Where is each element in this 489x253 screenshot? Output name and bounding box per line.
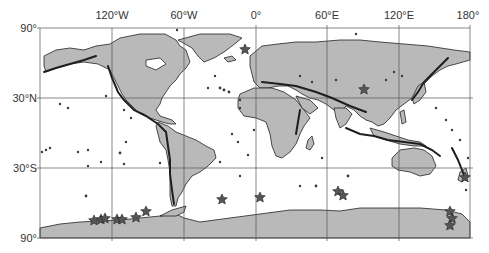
madagascar [306, 136, 314, 150]
iceland [224, 56, 236, 62]
star-icon [141, 206, 152, 216]
australia [392, 148, 436, 176]
star-icon [217, 194, 228, 204]
india [334, 108, 352, 128]
south-america [156, 122, 216, 206]
world-map [0, 0, 489, 253]
star-icon [240, 44, 251, 54]
land-masses [40, 34, 470, 238]
antarctica [40, 208, 470, 238]
antarctic-peninsula [160, 206, 186, 216]
north-america [44, 34, 190, 124]
philippines [400, 110, 406, 124]
